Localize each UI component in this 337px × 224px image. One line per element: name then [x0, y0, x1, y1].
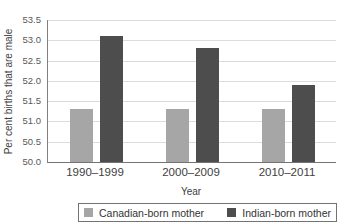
- x-axis-title: Year: [47, 186, 335, 197]
- bar-canadian-born-mother-1990–1999: [70, 109, 93, 162]
- y-tick-label-50.0: 50.0: [0, 156, 41, 168]
- legend-label: Indian-born mother: [242, 207, 331, 219]
- x-tick-label-2000–2009: 2000–2009: [143, 166, 239, 178]
- legend: Canadian-born motherIndian-born mother: [78, 203, 337, 222]
- y-tick-label-52.5: 52.5: [0, 55, 41, 67]
- legend-item-indian-born-mother: Indian-born mother: [227, 207, 331, 219]
- chart-title-clipped: time for mothers born in Canada to mothe…: [0, 0, 337, 5]
- bar-group-2010–2011: [262, 20, 315, 162]
- bar-group-2000–2009: [166, 20, 219, 162]
- bars-container: [48, 20, 336, 162]
- x-tick-label-1990–1999: 1990–1999: [47, 166, 143, 178]
- y-tick-label-51.0: 51.0: [0, 115, 41, 127]
- bar-indian-born-mother-2000–2009: [196, 48, 219, 162]
- bar-indian-born-mother-1990–1999: [100, 36, 123, 162]
- legend-label: Canadian-born mother: [99, 207, 204, 219]
- legend-item-canadian-born-mother: Canadian-born mother: [84, 207, 204, 219]
- bar-group-1990–1999: [70, 20, 123, 162]
- bar-canadian-born-mother-2000–2009: [166, 109, 189, 162]
- bar-canadian-born-mother-2010–2011: [262, 109, 285, 162]
- y-tick-label-52.0: 52.0: [0, 75, 41, 87]
- plot-area: [47, 20, 336, 163]
- sex-ratio-bar-chart: time for mothers born in Canada to mothe…: [0, 0, 337, 224]
- y-tick-label-50.5: 50.5: [0, 136, 41, 148]
- bar-indian-born-mother-2010–2011: [292, 85, 315, 162]
- x-axis-tick-labels: 1990–19992000–20092010–2011: [47, 166, 335, 178]
- y-axis-tick-labels: 53.553.052.552.051.551.050.550.0: [0, 20, 43, 162]
- y-tick-label-53.5: 53.5: [0, 14, 41, 26]
- x-tick-label-2010–2011: 2010–2011: [239, 166, 335, 178]
- y-tick-label-53.0: 53.0: [0, 34, 41, 46]
- legend-swatch-icon: [84, 208, 93, 217]
- legend-swatch-icon: [227, 208, 236, 217]
- y-tick-label-51.5: 51.5: [0, 95, 41, 107]
